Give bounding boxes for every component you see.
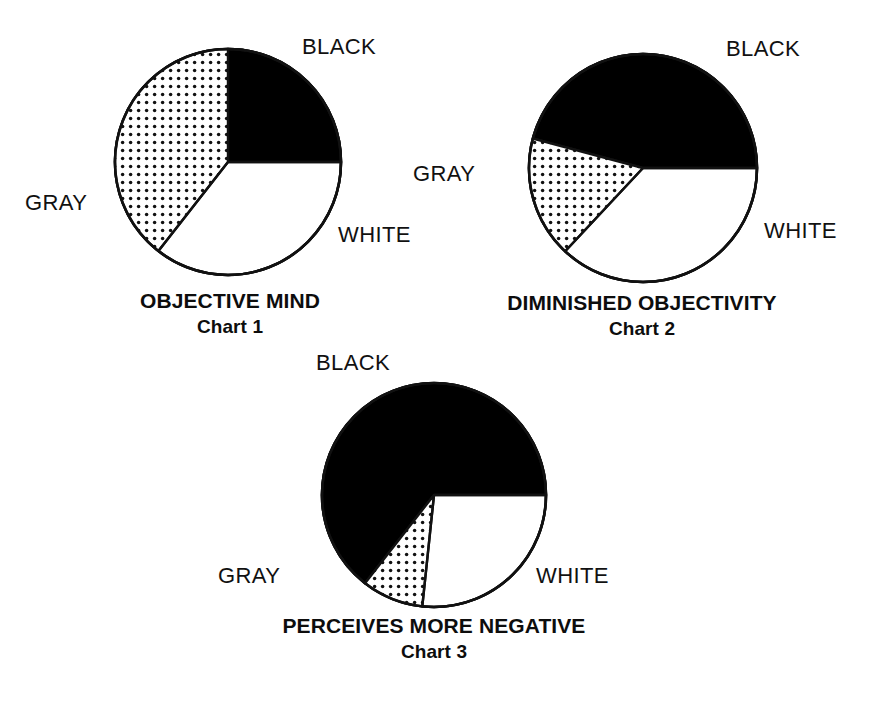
chart-1-label-gray: GRAY <box>25 192 87 214</box>
pie-chart-figure: BLACK GRAY WHITE OBJECTIVE MIND Chart 1 <box>0 0 872 711</box>
chart-2-label-gray: GRAY <box>413 163 475 185</box>
chart-2-caption: DIMINISHED OBJECTIVITY Chart 2 <box>412 291 872 340</box>
chart-3-title: PERCEIVES MORE NEGATIVE <box>204 614 664 639</box>
chart-1-caption: OBJECTIVE MIND Chart 1 <box>0 289 460 338</box>
chart-1-block: BLACK GRAY WHITE OBJECTIVE MIND Chart 1 <box>0 20 460 340</box>
chart-2-label-black: BLACK <box>726 38 800 60</box>
chart-2-title: DIMINISHED OBJECTIVITY <box>412 291 872 316</box>
chart-3-caption: PERCEIVES MORE NEGATIVE Chart 3 <box>204 614 664 663</box>
chart-3-label-black: BLACK <box>316 352 390 374</box>
chart-2-subtitle: Chart 2 <box>412 318 872 340</box>
chart-2-label-white: WHITE <box>764 220 837 242</box>
chart-3-label-gray: GRAY <box>218 565 280 587</box>
chart-3-label-white: WHITE <box>536 565 609 587</box>
chart-1-label-black: BLACK <box>302 36 376 58</box>
chart-1-slice-black <box>228 49 341 162</box>
chart-3-subtitle: Chart 3 <box>204 641 664 663</box>
chart-1-label-white: WHITE <box>338 224 411 246</box>
chart-1-pie <box>0 20 460 310</box>
chart-2-pie <box>412 20 872 310</box>
chart-2-block: BLACK GRAY WHITE DIMINISHED OBJECTIVITY … <box>412 20 872 340</box>
chart-1-subtitle: Chart 1 <box>0 316 460 338</box>
chart-1-title: OBJECTIVE MIND <box>0 289 460 314</box>
chart-3-block: BLACK GRAY WHITE PERCEIVES MORE NEGATIVE… <box>204 352 664 682</box>
